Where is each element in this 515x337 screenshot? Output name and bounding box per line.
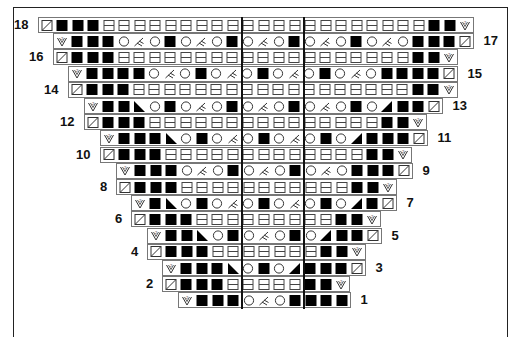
knit-icon [131,83,147,97]
knit-icon [194,18,210,32]
knit-icon [257,245,273,259]
right-triangle-icon [349,196,365,210]
knit-icon [116,50,132,64]
no-stitch-icon [410,67,426,81]
decrease-icon [380,196,396,210]
row-number-label: 14 [44,82,58,98]
no-stitch-icon [85,67,101,81]
knit-icon [225,212,241,226]
k2tog-icon [256,99,272,113]
no-stitch-icon [225,34,241,48]
yarn-over-icon [178,67,194,81]
k2tog-icon [319,164,335,178]
yarn-over-icon [334,196,350,210]
chart-row-6: 2 [131,211,381,227]
chart-row-10: 2 [100,147,412,163]
knit-icon [210,180,226,194]
yarn-over-icon [241,164,257,178]
row-number-label: 3 [376,260,383,276]
no-stitch-icon [179,212,195,226]
yarn-over-icon [210,131,226,145]
no-stitch-icon [317,67,333,81]
knit-icon [163,115,179,129]
no-stitch-icon [85,50,101,64]
row-number-label: 1 [361,292,368,308]
yarn-over-icon [179,131,195,145]
k2tog-icon [162,67,178,81]
chart-row-1: 2 [178,292,351,308]
yarn-over-icon [241,293,257,307]
yarn-over-icon [271,99,287,113]
no-stitch-icon [410,83,426,97]
row-number-label: 6 [115,211,122,227]
knit-icon [365,18,381,32]
increase-icon: 2 [350,245,366,259]
increase-icon: 2 [381,180,397,194]
no-stitch-icon [163,34,179,48]
decrease-icon [457,34,473,48]
knit-icon [147,115,163,129]
knit-icon [364,50,380,64]
k2tog-icon [132,34,148,48]
decrease-icon [396,164,412,178]
row-number-label: 5 [392,228,399,244]
no-stitch-icon [288,229,304,243]
knit-icon [334,148,350,162]
no-stitch-icon [101,50,117,64]
no-stitch-icon [194,277,210,291]
knit-icon [287,212,303,226]
no-stitch-icon [303,293,319,307]
right-triangle-icon [319,229,335,243]
no-stitch-icon [85,83,101,97]
no-stitch-icon [256,196,272,210]
knit-icon [147,83,163,97]
yarn-over-icon [271,34,287,48]
knit-icon [193,83,209,97]
yarn-over-icon [147,99,163,113]
knit-icon [194,115,210,129]
k2tog-icon [225,196,241,210]
decrease-icon [117,180,133,194]
no-stitch-icon [179,277,195,291]
increase-icon: 2 [69,67,85,81]
left-triangle-icon [195,229,211,243]
no-stitch-icon [133,164,149,178]
center-line-right [303,17,305,309]
increase-icon: 2 [441,83,457,97]
knit-icon [303,245,319,259]
yarn-over-icon [179,164,195,178]
knit-icon [241,180,257,194]
no-stitch-icon [133,180,149,194]
knit-icon [163,148,179,162]
knit-icon [303,180,319,194]
no-stitch-icon [164,245,180,259]
knit-icon [148,18,164,32]
no-stitch-icon [442,18,458,32]
no-stitch-icon [194,131,210,145]
knit-icon [411,18,427,32]
no-stitch-icon [55,18,71,32]
decrease-icon [101,148,117,162]
yarn-over-icon [241,229,257,243]
increase-icon: 2 [54,34,70,48]
knit-icon [395,83,411,97]
no-stitch-icon [395,115,411,129]
no-stitch-icon [255,67,271,81]
k2tog-icon [257,164,273,178]
knit-icon [271,115,287,129]
increase-icon: 2 [163,261,179,275]
yarn-over-icon [210,229,226,243]
knit-icon [225,148,241,162]
row-number-label: 12 [60,114,74,130]
no-stitch-icon [426,83,442,97]
chart-row-7: 2 [131,195,397,211]
chart-row-3: 2 [162,260,366,276]
yarn-over-icon [147,34,163,48]
no-stitch-icon [365,180,381,194]
no-stitch-icon [349,212,365,226]
no-stitch-icon [179,229,195,243]
k2tog-icon [287,131,303,145]
knit-icon [226,180,242,194]
knit-icon [226,245,242,259]
knit-icon [318,50,334,64]
